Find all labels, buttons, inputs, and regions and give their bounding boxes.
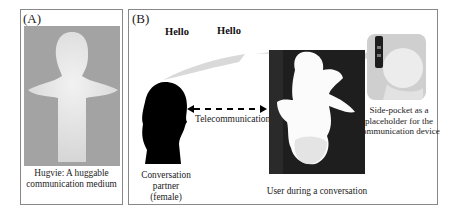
bidirectional-arrow-icon xyxy=(187,104,267,114)
caption-line: communication medium xyxy=(21,179,122,190)
partner-silhouette-icon xyxy=(141,80,189,164)
inset-caption: Side-pocket as a placeholder for the com… xyxy=(357,105,441,137)
panel-a: (A) Hugvie: A huggable communication med… xyxy=(20,9,123,205)
caption-line: partner xyxy=(129,181,203,192)
caption-line: (female) xyxy=(129,192,203,203)
partner-caption: Conversation partner (female) xyxy=(129,170,203,203)
caption-line: placeholder for the xyxy=(357,116,441,127)
caption-line: Hugvie: A huggable xyxy=(21,168,122,179)
caption-line: Side-pocket as a xyxy=(357,105,441,116)
side-pocket-photo xyxy=(367,34,426,100)
caption-line: communication device xyxy=(357,126,441,137)
panel-a-label: (A) xyxy=(23,11,41,27)
panel-b-label: (B) xyxy=(132,11,149,27)
phone-in-pocket-icon xyxy=(367,34,426,100)
caption-line: Conversation xyxy=(129,170,203,181)
hugvie-photo xyxy=(24,26,120,166)
hugvie-doll-icon xyxy=(24,26,120,166)
user-hugging-doll-icon xyxy=(269,50,365,174)
panel-a-caption: Hugvie: A huggable communication medium xyxy=(21,168,122,190)
hello-text-right: Hello xyxy=(217,25,241,36)
user-caption: User during a conversation xyxy=(259,186,375,197)
panel-b: (B) Hello Hello Telecommunication Conver… xyxy=(128,9,438,205)
user-photo xyxy=(269,50,365,174)
telecommunication-label: Telecommunication xyxy=(195,114,270,124)
